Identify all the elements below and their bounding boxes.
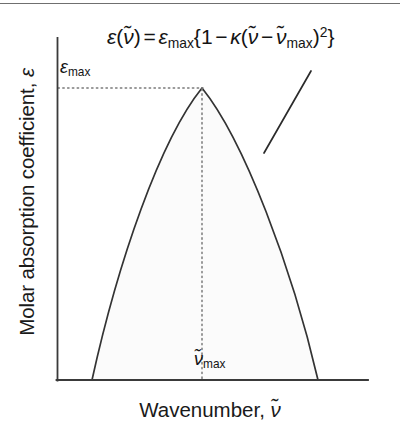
equation-epsilon-max: ε <box>158 25 167 48</box>
eps-max-subscript: max <box>68 65 90 79</box>
equation-minus-2: − <box>258 25 276 48</box>
x-axis-title: Wavenumber, ν̃ <box>40 398 380 422</box>
equation-leader-line <box>264 71 311 153</box>
equation-annotation: ε(ν̃)=εmax{1−κ(ν̃−ν̃max)2} <box>107 26 334 51</box>
equation-nu-tilde-2: ν̃ <box>248 25 259 48</box>
x-axis-title-text: Wavenumber, <box>139 398 265 421</box>
y-axis-title-spacer <box>15 77 39 83</box>
equation-epsilon-max-subscript: max <box>168 35 194 51</box>
equation-one: 1 <box>201 25 213 48</box>
equation-epsilon: ε <box>107 25 116 48</box>
equation-close-paren: ) <box>134 25 141 48</box>
eps-max-symbol: ε <box>60 57 68 77</box>
equation-close-paren-2: ) <box>313 25 320 48</box>
equation-nu-tilde: ν̃ <box>123 25 134 48</box>
absorption-band-fill <box>92 88 318 380</box>
equation-close-brace: } <box>327 25 334 48</box>
equation-kappa: κ <box>230 25 241 48</box>
equation-open-paren-2: ( <box>241 25 248 48</box>
equation-equals: = <box>141 25 159 48</box>
y-axis-title-symbol: ε <box>15 68 39 77</box>
y-axis-title: Molar absorption coefficient, ε <box>10 22 44 382</box>
y-axis-title-text: Molar absorption coefficient, <box>15 83 39 336</box>
nu-max-tick-label: ν̃max <box>194 350 225 371</box>
equation-nu-max-subscript: max <box>286 35 312 51</box>
nu-max-symbol: ν̃ <box>194 349 203 369</box>
nu-max-subscript: max <box>203 357 225 371</box>
eps-max-tick-label: εmax <box>60 58 90 79</box>
equation-minus-1: − <box>213 25 231 48</box>
equation-open-brace: { <box>194 25 201 48</box>
x-axis-title-symbol: ν̃ <box>271 398 281 421</box>
figure-panel: ε(ν̃)=εmax{1−κ(ν̃−ν̃max)2} εmax ν̃max Mo… <box>0 0 400 438</box>
equation-nu-tilde-max: ν̃ <box>276 25 287 48</box>
